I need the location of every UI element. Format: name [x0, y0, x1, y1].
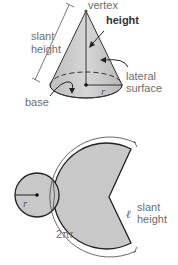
lateral-surface-label-2: surface	[126, 82, 162, 94]
slant-symbol-label: ℓ	[126, 208, 131, 220]
slant-height-label-2: height	[31, 43, 61, 55]
net-center-dot	[35, 193, 39, 197]
base-label: base	[25, 96, 49, 108]
cone-figure: vertex height slant height lateral surfa…	[0, 0, 178, 265]
height-label: height	[106, 14, 139, 26]
vertex-label: vertex	[88, 0, 118, 11]
circumference-label: 2πr	[56, 228, 74, 240]
net-slant-height-label-2: height	[137, 213, 167, 225]
cone-radius-label: r	[101, 85, 106, 97]
cone-base-center-dot	[84, 83, 88, 87]
slant-height-label-1: slant	[31, 30, 54, 42]
cone-net	[15, 137, 137, 257]
net-radius-label: r	[23, 197, 28, 209]
lateral-surface-label-1: lateral	[126, 70, 156, 82]
net-slant-height-label-1: slant	[137, 201, 160, 213]
